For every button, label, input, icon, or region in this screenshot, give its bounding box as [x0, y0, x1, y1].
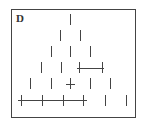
panel-label: D [16, 13, 24, 24]
panel-frame [12, 10, 136, 118]
diagram-panel: D [0, 0, 145, 126]
